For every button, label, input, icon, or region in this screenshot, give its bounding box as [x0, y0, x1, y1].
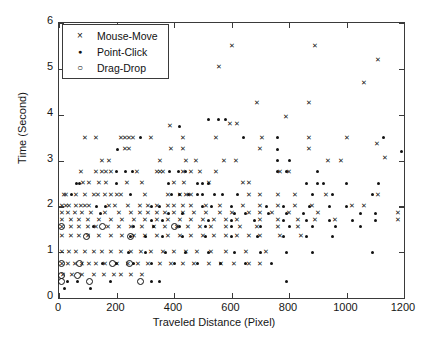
- data-point-dot: [377, 182, 380, 185]
- data-point-dot: [230, 235, 233, 238]
- data-point-x: ✕: [116, 224, 122, 230]
- data-point-dot: [285, 212, 288, 215]
- x-tick-top: [347, 23, 348, 28]
- data-point-x: ✕: [234, 217, 240, 223]
- legend-item-mouse-move: × Mouse-Move: [63, 28, 168, 44]
- data-point-dot: [158, 205, 161, 208]
- data-point-circle: [58, 223, 65, 230]
- data-point-dot: [127, 251, 130, 254]
- data-point-x: ✕: [131, 233, 137, 239]
- data-point-dot: [184, 251, 187, 254]
- data-point-dot: [201, 205, 204, 208]
- data-point-dot: [331, 193, 334, 196]
- data-point-dot: [276, 170, 279, 173]
- data-point-dot: [70, 193, 73, 196]
- data-point-x: ✕: [76, 233, 82, 239]
- data-point-dot: [285, 170, 288, 173]
- data-point-dot: [288, 159, 291, 162]
- data-point-x: ✕: [283, 114, 289, 120]
- data-point-x: ✕: [102, 192, 108, 198]
- data-point-x: ✕: [135, 261, 141, 267]
- data-point-x: ✕: [191, 210, 197, 216]
- data-point-x: ✕: [229, 43, 235, 49]
- data-point-x: ✕: [68, 224, 74, 230]
- x-tick-label: 400: [143, 301, 203, 313]
- data-point-x: ✕: [125, 261, 131, 267]
- data-point-x: ✕: [142, 233, 148, 239]
- data-point-circle: [74, 272, 81, 279]
- data-point-x: ✕: [139, 224, 145, 230]
- data-point-dot: [244, 212, 247, 215]
- data-point-x: ✕: [171, 249, 177, 255]
- data-point-x: ✕: [254, 224, 260, 230]
- data-point-x: ✕: [137, 210, 143, 216]
- data-point-x: ✕: [65, 261, 71, 267]
- data-point-dot: [164, 251, 167, 254]
- data-point-x: ✕: [257, 217, 263, 223]
- data-point-x: ✕: [275, 203, 281, 209]
- data-point-dot: [221, 193, 224, 196]
- data-point-x: ✕: [78, 203, 84, 209]
- data-point-x: ✕: [116, 210, 122, 216]
- data-point-x: ✕: [102, 210, 108, 216]
- data-point-dot: [75, 182, 78, 185]
- data-point-x: ✕: [259, 135, 265, 141]
- data-point-circle: [137, 278, 144, 285]
- data-point-dot: [178, 225, 181, 228]
- data-point-x: ✕: [86, 180, 92, 186]
- data-point-x: ✕: [306, 100, 312, 106]
- data-point-dot: [311, 193, 314, 196]
- data-point-x: ✕: [180, 135, 186, 141]
- data-point-circle: [83, 233, 90, 240]
- x-tick: [347, 293, 348, 298]
- data-point-x: ✕: [257, 233, 263, 239]
- data-point-dot: [302, 212, 305, 215]
- data-point-x: ✕: [76, 217, 82, 223]
- data-point-x: ✕: [177, 233, 183, 239]
- data-point-dot: [115, 182, 118, 185]
- data-point-x: ✕: [323, 192, 329, 198]
- data-point-dot: [282, 205, 285, 208]
- data-point-x: ✕: [231, 261, 237, 267]
- data-point-x: ✕: [142, 217, 148, 223]
- data-point-x: ✕: [309, 203, 315, 209]
- data-point-dot: [244, 262, 247, 265]
- data-point-x: ✕: [217, 203, 223, 209]
- data-point-x: ✕: [95, 192, 101, 198]
- data-point-x: ✕: [167, 123, 173, 129]
- data-point-dot: [382, 136, 385, 139]
- data-point-circle: [127, 233, 134, 240]
- data-point-dot: [150, 280, 153, 283]
- data-point-x: ✕: [200, 217, 206, 223]
- data-point-dot: [129, 235, 132, 238]
- data-point-x: ✕: [142, 192, 148, 198]
- data-point-dot: [66, 280, 69, 283]
- x-tick-label: 600: [201, 301, 261, 313]
- data-point-x: ✕: [119, 217, 125, 223]
- data-point-x: ✕: [73, 192, 79, 198]
- data-point-x: ✕: [80, 180, 86, 186]
- data-point-circle: [58, 260, 65, 267]
- y-tick-right: [399, 252, 404, 253]
- data-point-dot: [328, 205, 331, 208]
- legend-label-point-click: Point-Click: [97, 46, 147, 58]
- data-point-x: ✕: [60, 272, 66, 278]
- data-point-x: ✕: [216, 64, 222, 70]
- data-point-x: ✕: [96, 217, 102, 223]
- data-point-dot: [204, 235, 207, 238]
- data-point-x: ✕: [188, 203, 194, 209]
- data-point-x: ✕: [131, 217, 137, 223]
- data-point-x: ✕: [96, 180, 102, 186]
- data-point-dot: [276, 136, 279, 139]
- data-point-circle: [76, 260, 83, 267]
- y-axis-title: Time (Second): [16, 68, 28, 188]
- data-point-x: ✕: [275, 217, 281, 223]
- data-point-x: ✕: [188, 192, 194, 198]
- legend-label-mouse-move: Mouse-Move: [97, 30, 158, 42]
- data-point-x: ✕: [68, 217, 74, 223]
- data-point-x: ✕: [298, 233, 304, 239]
- data-point-x: ✕: [85, 233, 91, 239]
- data-point-x: ✕: [312, 217, 318, 223]
- data-point-x: ✕: [111, 272, 117, 278]
- legend-item-drag-drop: ○ Drag-Drop: [63, 60, 168, 76]
